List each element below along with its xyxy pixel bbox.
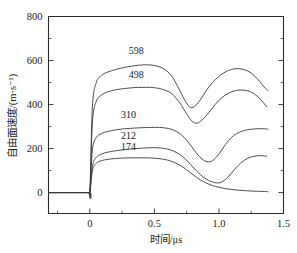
curve-310 (49, 127, 269, 195)
y-tick-label: 400 (27, 99, 43, 110)
curve-174 (49, 158, 269, 194)
y-axis-ticks (49, 17, 284, 193)
axis-frame (49, 17, 284, 214)
curve-598 (49, 65, 269, 199)
x-axis-title: 时间/μs (150, 233, 183, 245)
x-tick-label: 1.0 (212, 218, 225, 229)
data-curves (49, 65, 269, 199)
curve-212 (49, 148, 267, 195)
y-axis-title: 自由面速度/(m·s⁻¹) (6, 73, 19, 158)
curve-label-174: 174 (121, 141, 136, 152)
y-tick-label: 600 (27, 55, 43, 66)
x-axis-tick-labels: 00.51.01.5 (87, 218, 290, 229)
curve-label-598: 598 (129, 45, 144, 56)
figure-container: ·· ··· ·· ···· ·· ··· ····· ·· ···· 00.5… (0, 0, 297, 253)
x-tick-label: 0 (87, 218, 92, 229)
y-tick-label: 0 (37, 187, 42, 198)
y-tick-label: 200 (27, 143, 43, 154)
velocity-time-chart: 00.51.01.5 0200400600800 598498310212174… (0, 0, 297, 253)
x-tick-label: 1.5 (277, 218, 290, 229)
curve-label-310: 310 (121, 109, 136, 120)
y-axis-tick-labels: 0200400600800 (27, 11, 43, 198)
curve-value-labels: 598498310212174 (121, 45, 144, 152)
x-tick-label: 0.5 (148, 218, 161, 229)
y-tick-label: 800 (27, 11, 43, 22)
x-axis-ticks (58, 209, 284, 214)
curve-label-212: 212 (121, 130, 136, 141)
page-edge-artifact-text: ·· ··· ·· ···· ·· ··· ····· ·· ···· (86, 1, 295, 6)
curve-498 (49, 87, 267, 198)
curve-label-498: 498 (129, 69, 144, 80)
